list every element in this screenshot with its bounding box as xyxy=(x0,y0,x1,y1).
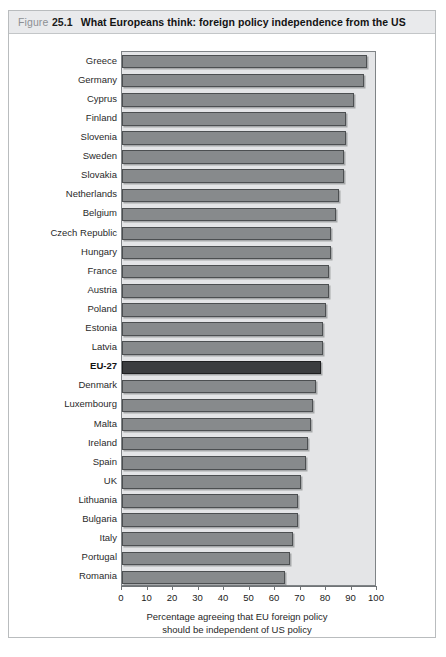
bar-row xyxy=(122,284,375,298)
category-label-ireland: Ireland xyxy=(13,438,117,448)
x-tick xyxy=(376,586,377,590)
bar-slovenia xyxy=(122,131,346,145)
bar-hungary xyxy=(122,246,331,260)
bar-malta xyxy=(122,418,311,432)
category-label-uk: UK xyxy=(13,476,117,486)
category-label-germany: Germany xyxy=(13,75,117,85)
bar-slovakia xyxy=(122,169,344,183)
category-label-estonia: Estonia xyxy=(13,323,117,333)
category-label-portugal: Portugal xyxy=(13,552,117,562)
category-label-hungary: Hungary xyxy=(13,247,117,257)
category-label-romania: Romania xyxy=(13,571,117,581)
bar-italy xyxy=(122,532,293,546)
bar-luxembourg xyxy=(122,399,313,413)
bar-row xyxy=(122,341,375,355)
x-tick xyxy=(223,586,224,590)
x-tick-label-50: 50 xyxy=(243,592,254,603)
category-label-bulgaria: Bulgaria xyxy=(13,514,117,524)
bar-row xyxy=(122,150,375,164)
category-label-finland: Finland xyxy=(13,113,117,123)
x-tick-label-80: 80 xyxy=(320,592,331,603)
category-labels: GreeceGermanyCyprusFinlandSloveniaSweden… xyxy=(9,51,117,586)
bar-row xyxy=(122,418,375,432)
category-label-luxembourg: Luxembourg xyxy=(13,399,117,409)
bar-row xyxy=(122,246,375,260)
x-tick xyxy=(300,586,301,590)
bar-uk xyxy=(122,475,301,489)
bar-row xyxy=(122,93,375,107)
category-label-greece: Greece xyxy=(13,56,117,66)
bar-france xyxy=(122,265,329,279)
bar-row xyxy=(122,399,375,413)
bar-row xyxy=(122,513,375,527)
bar-poland xyxy=(122,303,326,317)
bar-greece xyxy=(122,55,367,69)
x-tick-label-30: 30 xyxy=(192,592,203,603)
category-label-france: France xyxy=(13,266,117,276)
x-tick-label-40: 40 xyxy=(218,592,229,603)
bar-row xyxy=(122,494,375,508)
x-axis-caption-line2: should be independent of US policy xyxy=(69,624,405,637)
category-label-slovakia: Slovakia xyxy=(13,170,117,180)
bar-netherlands xyxy=(122,189,339,203)
figure-title: What Europeans think: foreign policy ind… xyxy=(81,16,406,28)
figure-label-word: Figure xyxy=(18,16,48,28)
category-label-lithuania: Lithuania xyxy=(13,495,117,505)
x-tick xyxy=(325,586,326,590)
x-tick-label-100: 100 xyxy=(368,592,384,603)
category-label-slovenia: Slovenia xyxy=(13,132,117,142)
bar-ireland xyxy=(122,437,308,451)
bar-estonia xyxy=(122,322,323,336)
bar-belgium xyxy=(122,208,336,222)
bar-row xyxy=(122,532,375,546)
category-label-poland: Poland xyxy=(13,304,117,314)
bar-lithuania xyxy=(122,494,298,508)
category-label-malta: Malta xyxy=(13,419,117,429)
bar-row xyxy=(122,112,375,126)
bar-germany xyxy=(122,74,364,88)
bar-sweden xyxy=(122,150,344,164)
x-tick xyxy=(351,586,352,590)
category-label-latvia: Latvia xyxy=(13,342,117,352)
bars-layer xyxy=(122,52,375,585)
bar-row xyxy=(122,227,375,241)
category-label-czech-republic: Czech Republic xyxy=(13,228,117,238)
bar-eu-27 xyxy=(122,361,321,375)
bar-spain xyxy=(122,456,306,470)
bar-cyprus xyxy=(122,93,354,107)
x-tick-label-0: 0 xyxy=(118,592,123,603)
bar-row xyxy=(122,475,375,489)
bar-row xyxy=(122,208,375,222)
bar-latvia xyxy=(122,341,323,355)
category-label-austria: Austria xyxy=(13,285,117,295)
x-axis-caption: Percentage agreeing that EU foreign poli… xyxy=(69,611,405,636)
chart-body: GreeceGermanyCyprusFinlandSloveniaSweden… xyxy=(9,34,435,637)
bar-denmark xyxy=(122,380,316,394)
plot-area xyxy=(121,51,376,586)
bar-bulgaria xyxy=(122,513,298,527)
bar-row xyxy=(122,74,375,88)
bar-finland xyxy=(122,112,346,126)
bar-row xyxy=(122,189,375,203)
x-tick-label-10: 10 xyxy=(141,592,152,603)
category-label-italy: Italy xyxy=(13,533,117,543)
bar-row xyxy=(122,265,375,279)
bar-row xyxy=(122,552,375,566)
x-tick-label-60: 60 xyxy=(269,592,280,603)
category-label-denmark: Denmark xyxy=(13,380,117,390)
x-axis-caption-line1: Percentage agreeing that EU foreign poli… xyxy=(69,611,405,624)
bar-row xyxy=(122,456,375,470)
figure-number: 25.1 xyxy=(52,16,73,28)
x-tick xyxy=(274,586,275,590)
figure-container: Figure 25.1 What Europeans think: foreig… xyxy=(8,10,436,638)
category-label-spain: Spain xyxy=(13,457,117,467)
bar-row xyxy=(122,437,375,451)
bar-austria xyxy=(122,284,329,298)
category-label-cyprus: Cyprus xyxy=(13,94,117,104)
x-tick-label-90: 90 xyxy=(345,592,356,603)
bar-row xyxy=(122,322,375,336)
x-tick-label-70: 70 xyxy=(294,592,305,603)
bar-row xyxy=(122,361,375,375)
bar-row xyxy=(122,55,375,69)
bar-row xyxy=(122,169,375,183)
